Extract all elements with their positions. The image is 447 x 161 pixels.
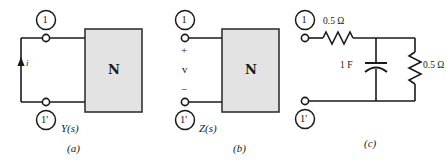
network-symbol-a: N <box>108 63 120 76</box>
panel-b: 1 1' + v − N Z(s) (b) <box>145 0 295 161</box>
terminal-label-top-b: 1 <box>182 15 187 26</box>
terminal-label-bottom-c: 1' <box>300 114 307 125</box>
terminal-dot-bottom-a <box>42 98 49 105</box>
terminal-dot-top-b <box>181 34 188 41</box>
current-label-a: i <box>26 59 29 68</box>
shunt-resistor-symbol-c <box>409 52 421 84</box>
circuit-figure: 1 1' i N Y(s) (a) 1 1' + v − N Z(s) (b) <box>0 0 447 161</box>
polarity-plus-b: + <box>181 45 187 56</box>
terminal-dot-top-a <box>42 34 49 41</box>
caption-c: (c) <box>364 138 376 149</box>
terminal-dot-bottom-c <box>301 97 308 104</box>
series-resistor-value-c: 0.5 Ω <box>323 17 344 27</box>
polarity-minus-b: − <box>181 84 187 95</box>
series-resistor-symbol-c <box>323 32 353 44</box>
panel-a: 1 1' i N Y(s) (a) <box>0 0 150 161</box>
shunt-capacitor-value-c: 1 F <box>340 61 352 71</box>
current-arrow-a <box>17 57 24 66</box>
shunt-resistor-value-c: 0.5 Ω <box>423 61 444 71</box>
terminal-label-bottom-a: 1' <box>41 115 48 126</box>
panel-b-diagram <box>145 0 295 161</box>
caption-a: (a) <box>67 143 80 154</box>
panel-c: 1 1' 0.5 Ω 1 F 0.5 Ω (c) <box>290 0 447 161</box>
terminal-dot-bottom-b <box>181 98 188 105</box>
terminal-label-bottom-b: 1' <box>180 115 187 126</box>
function-label-a: Y(s) <box>61 123 79 134</box>
function-label-b: Z(s) <box>199 123 217 134</box>
panel-a-diagram <box>0 0 150 161</box>
network-symbol-b: N <box>245 63 257 76</box>
terminal-label-top-a: 1 <box>43 15 48 26</box>
terminal-label-top-c: 1 <box>302 15 307 26</box>
voltage-label-b: v <box>182 64 188 75</box>
caption-b: (b) <box>233 143 246 154</box>
terminal-dot-top-c <box>301 34 308 41</box>
